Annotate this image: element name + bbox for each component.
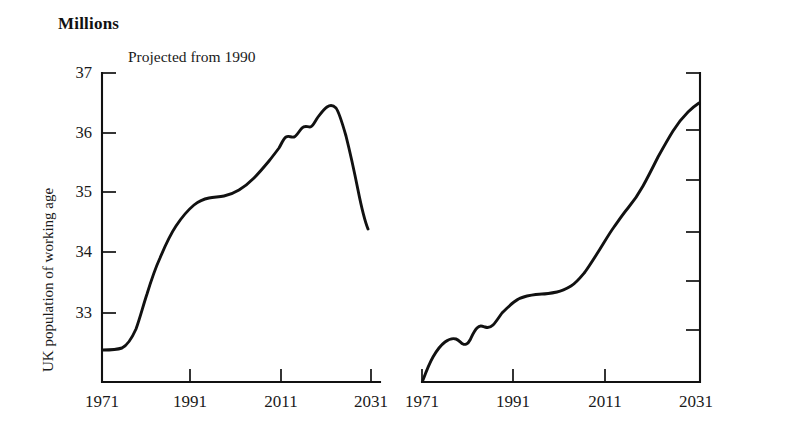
series-line-working-age xyxy=(103,106,368,350)
right-axes-group xyxy=(422,73,700,382)
left-axes-group xyxy=(102,73,380,382)
series-line-pensionable-age xyxy=(423,103,699,380)
left-axis-lines xyxy=(102,73,380,382)
figure-canvas: Millions Projected from 1990 UK populati… xyxy=(0,0,785,431)
plot-vector-layer xyxy=(0,0,785,431)
right-axis-lines xyxy=(422,73,700,382)
